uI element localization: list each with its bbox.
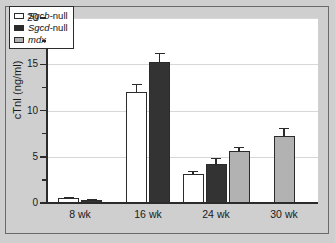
y-axis-tick-label-wrap: 5 bbox=[0, 152, 38, 162]
legend-suffix-sgcb: -null bbox=[50, 10, 68, 21]
y-axis-tick bbox=[40, 202, 46, 204]
x-axis-tick-label: 16 wk bbox=[118, 208, 178, 220]
x-axis-tick-label: 30 wk bbox=[254, 208, 314, 220]
plot-inner bbox=[46, 18, 318, 203]
y-axis-tick-label: 5 bbox=[8, 152, 38, 162]
gridline bbox=[46, 64, 318, 65]
legend-label-sgcd: Sgcd-null bbox=[28, 23, 68, 33]
error-bar-cap bbox=[234, 147, 244, 148]
y-axis-tick-label-wrap: 15 bbox=[0, 59, 38, 69]
error-bar-stem bbox=[159, 53, 160, 62]
bar bbox=[149, 62, 170, 203]
y-axis-tick bbox=[40, 64, 46, 66]
legend-item-sgcd: Sgcd-null bbox=[14, 22, 68, 33]
y-axis-tick-label: 10 bbox=[8, 106, 38, 116]
legend-gene-mdx: mdx bbox=[28, 34, 46, 45]
gridline bbox=[46, 18, 318, 19]
error-bar-stem bbox=[136, 84, 137, 92]
figure-panel: cTnI (ng/ml) Sgcb-null Sgcd-null mdx 051… bbox=[0, 0, 335, 243]
error-bar-cap bbox=[279, 128, 289, 129]
y-axis-tick-label-wrap: 20 bbox=[0, 13, 38, 23]
y-axis-tick bbox=[40, 156, 46, 158]
bar bbox=[274, 136, 295, 203]
x-axis-tick-label: 8 wk bbox=[50, 208, 110, 220]
y-axis-tick-label: 15 bbox=[8, 59, 38, 69]
legend-item-mdx: mdx bbox=[14, 34, 68, 45]
y-axis-tick-label-wrap: 0 bbox=[0, 198, 38, 208]
y-axis-title: cTnI (ng/ml) bbox=[11, 40, 23, 140]
y-axis-tick bbox=[40, 110, 46, 112]
legend-swatch-sgcd-icon bbox=[14, 25, 24, 31]
y-axis-minor-tick bbox=[42, 40, 46, 42]
x-axis-line bbox=[46, 202, 318, 204]
y-axis-minor-tick bbox=[42, 133, 46, 135]
legend-gene-sgcd: Sgcd bbox=[28, 22, 50, 33]
bar bbox=[183, 174, 204, 203]
bar bbox=[126, 92, 147, 203]
plot-area bbox=[46, 18, 318, 203]
error-bar-cap bbox=[188, 171, 198, 172]
error-bar-cap bbox=[155, 53, 165, 54]
legend-swatch-mdx-icon bbox=[14, 37, 24, 43]
y-axis-tick bbox=[40, 17, 46, 19]
bar bbox=[229, 151, 250, 203]
error-bar-cap bbox=[132, 84, 142, 85]
y-axis-minor-tick bbox=[42, 179, 46, 181]
bar bbox=[206, 164, 227, 203]
y-axis-tick-label: 20 bbox=[8, 13, 38, 23]
error-bar-cap bbox=[211, 158, 221, 159]
error-bar-stem bbox=[283, 128, 284, 136]
gridline bbox=[46, 111, 318, 112]
error-bar-cap bbox=[87, 199, 97, 200]
y-axis-tick-label: 0 bbox=[8, 198, 38, 208]
legend-suffix-sgcd: -null bbox=[50, 22, 68, 33]
error-bar-cap bbox=[64, 197, 74, 198]
x-axis-tick-label: 24 wk bbox=[186, 208, 246, 220]
y-axis-tick-label-wrap: 10 bbox=[0, 106, 38, 116]
y-axis-minor-tick bbox=[42, 87, 46, 89]
